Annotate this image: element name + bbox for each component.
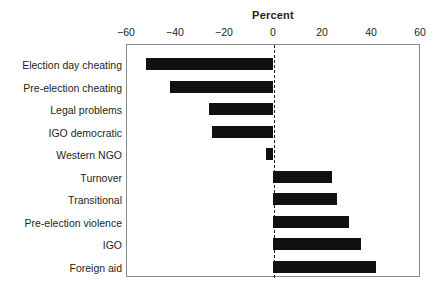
bar <box>273 261 376 273</box>
bar <box>273 216 349 228</box>
category-label: Election day cheating <box>22 59 122 71</box>
category-label: Western NGO <box>56 149 122 161</box>
bar-series <box>126 44 420 277</box>
bar <box>273 171 332 183</box>
category-label: Foreign aid <box>69 262 122 274</box>
category-label: Transitional <box>68 194 122 206</box>
x-tick-label--20: −20 <box>215 26 233 38</box>
category-label: Turnover <box>80 172 122 184</box>
x-tick-label-20: 20 <box>316 26 328 38</box>
x-tick-label--60: −60 <box>117 26 135 38</box>
bar <box>146 58 273 70</box>
category-label: Pre-election violence <box>25 217 122 229</box>
bar <box>212 126 273 138</box>
category-label: Pre-election cheating <box>23 82 122 94</box>
category-label: IGO democratic <box>48 127 122 139</box>
x-tick-label-60: 60 <box>414 26 426 38</box>
bar <box>273 238 361 250</box>
category-label: IGO <box>103 239 122 251</box>
bar <box>273 193 337 205</box>
bar <box>209 103 273 115</box>
bar-chart: Percent −60−40−200204060 Election day ch… <box>0 0 438 287</box>
x-tick-label-40: 40 <box>365 26 377 38</box>
x-tick-label-0: 0 <box>270 26 276 38</box>
bar <box>266 148 273 160</box>
x-tick-label--40: −40 <box>166 26 184 38</box>
category-label: Legal problems <box>50 104 122 116</box>
chart-title: Percent <box>252 9 294 21</box>
y-axis-category-labels: Election day cheatingPre-election cheati… <box>0 44 122 277</box>
bar <box>170 81 273 93</box>
